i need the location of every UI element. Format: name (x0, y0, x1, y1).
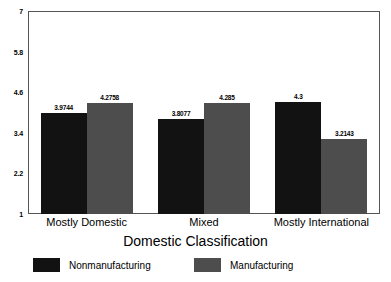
y-axis-tick-label: 7 (19, 8, 23, 15)
bar-value-label: 4.3 (294, 93, 302, 100)
legend-color-swatch (194, 258, 221, 272)
bar-manufacturing[interactable]: 4.2758 (87, 103, 133, 214)
bar-nonmanufacturing[interactable]: 3.9744 (41, 113, 87, 214)
x-axis-category-labels: Mostly DomesticMixedMostly International (28, 216, 380, 232)
bar-value-label: 3.8077 (172, 110, 191, 117)
bar-value-label: 3.2143 (335, 130, 354, 137)
chart-legend: NonmanufacturingManufacturing (0, 258, 391, 280)
bar-group: 3.97444.2758 (41, 11, 133, 214)
bar-value-label: 4.2758 (100, 94, 119, 101)
x-axis-category-label: Mostly International (274, 216, 369, 228)
bar-manufacturing[interactable]: 4.285 (204, 103, 250, 214)
x-axis-title: Domestic Classification (0, 233, 391, 249)
bar-nonmanufacturing[interactable]: 3.8077 (158, 119, 204, 214)
legend-color-swatch (33, 258, 60, 272)
bar-value-label: 3.9744 (54, 104, 73, 111)
y-axis-tick-label: 3.4 (14, 129, 23, 136)
legend-item-label: Manufacturing (230, 260, 293, 271)
x-axis-category-label: Mostly Domestic (46, 216, 127, 228)
bar-value-label: 4.285 (219, 94, 234, 101)
legend-item[interactable]: Manufacturing (194, 258, 293, 272)
bar-chart-figure: 12.23.44.65.87 3.97444.27583.80774.2854.… (0, 0, 391, 282)
legend-item-label: Nonmanufacturing (69, 260, 151, 271)
y-axis: 12.23.44.65.87 (0, 11, 26, 214)
bar-group: 3.80774.285 (158, 11, 250, 214)
legend-item[interactable]: Nonmanufacturing (33, 258, 151, 272)
y-axis-tick-label: 1 (19, 211, 23, 218)
bar-manufacturing[interactable]: 3.2143 (321, 139, 367, 214)
y-axis-tick-label: 5.8 (14, 48, 23, 55)
x-axis-category-label: Mixed (189, 216, 218, 228)
bars-layer: 3.97444.27583.80774.2854.33.2143 (28, 11, 380, 214)
y-axis-tick-label: 4.6 (14, 89, 23, 96)
bar-nonmanufacturing[interactable]: 4.3 (275, 102, 321, 214)
y-axis-tick-label: 2.2 (14, 170, 23, 177)
bar-group: 4.33.2143 (275, 11, 367, 214)
